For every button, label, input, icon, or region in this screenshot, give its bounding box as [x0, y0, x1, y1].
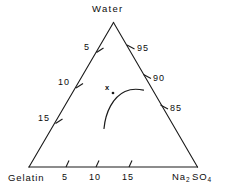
- composition-point-label: x: [105, 84, 109, 92]
- tick-label-right-90: 90: [153, 74, 165, 83]
- tick-label-right-85: 85: [170, 104, 182, 113]
- formula-so: SO: [192, 171, 208, 182]
- tick-bottom-15: [129, 161, 132, 168]
- formula-na: Na: [172, 171, 186, 182]
- tick-bottom-5: [66, 161, 69, 168]
- axis-right-edge: [114, 23, 198, 168]
- vertex-label-gelatin: Gelatin: [8, 173, 44, 183]
- diagram-canvas: [0, 0, 226, 193]
- tick-label-left-10: 10: [58, 78, 70, 87]
- tick-label-right-95: 95: [137, 44, 149, 53]
- vertex-label-sodium-sulfate: Na2SO4: [172, 172, 211, 182]
- ternary-phase-diagram: Water 5 10 15 95 90 85 5 10 15 Gelatin N…: [0, 0, 226, 193]
- composition-point-dot: [112, 92, 115, 95]
- binodal-curve: [104, 89, 144, 128]
- formula-na-subscript: 2: [186, 176, 190, 183]
- tick-label-bottom-5: 5: [62, 173, 68, 182]
- tick-label-left-15: 15: [38, 114, 50, 123]
- apex-label-water: Water: [92, 4, 123, 14]
- tick-label-bottom-15: 15: [122, 173, 134, 182]
- tick-bottom-10: [96, 161, 99, 168]
- tick-right-85: [161, 105, 169, 109]
- axis-left-edge: [29, 23, 114, 168]
- tick-label-bottom-10: 10: [89, 173, 101, 182]
- tick-label-left-5: 5: [84, 43, 90, 52]
- formula-so-subscript: 4: [208, 176, 212, 183]
